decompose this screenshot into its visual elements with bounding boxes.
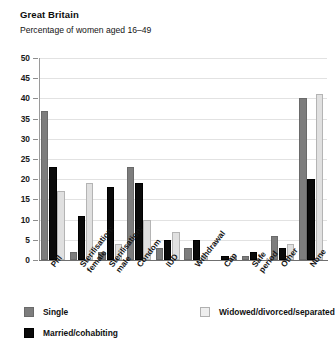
y-axis-tick-mark	[33, 78, 38, 79]
y-axis-tick-mark	[33, 240, 38, 241]
y-axis-tick-mark	[33, 260, 38, 261]
y-axis-tick-label: 50	[4, 54, 30, 62]
chart-card: Great Britain Percentage of women aged 1…	[0, 0, 335, 359]
y-axis-tick-label: 20	[4, 175, 30, 183]
y-axis-tick-mark	[33, 98, 38, 99]
y-axis-tick-mark	[33, 220, 38, 221]
y-axis-tick-label: 45	[4, 74, 30, 82]
y-axis-tick-label: 25	[4, 155, 30, 163]
y-axis-tick-mark	[33, 199, 38, 200]
legend-swatch-single-icon	[24, 307, 34, 317]
y-axis-tick-mark	[33, 159, 38, 160]
bar	[299, 98, 306, 260]
y-axis-tick-label: 10	[4, 216, 30, 224]
y-axis-tick-label: 35	[4, 115, 30, 123]
y-axis-tick-label: 40	[4, 94, 30, 102]
y-axis-tick-mark	[33, 179, 38, 180]
bar-group	[40, 58, 327, 260]
y-axis-tick-label: 30	[4, 135, 30, 143]
legend-label-married: Married/cohabiting	[43, 328, 118, 338]
legend-item-single[interactable]: Single	[24, 307, 68, 317]
y-axis-tick-label: 15	[4, 195, 30, 203]
legend: Single Widowed/divorced/separated Marrie…	[24, 307, 324, 351]
plot-area	[40, 58, 327, 260]
legend-swatch-widowed-icon	[200, 307, 210, 317]
legend-item-married[interactable]: Married/cohabiting	[24, 328, 118, 338]
legend-label-widowed: Widowed/divorced/separated	[219, 307, 335, 317]
legend-item-widowed[interactable]: Widowed/divorced/separated	[200, 307, 335, 317]
page-title: Great Britain	[20, 9, 79, 20]
y-axis-tick-mark	[33, 139, 38, 140]
chart-subtitle: Percentage of women aged 16–49	[20, 25, 151, 35]
bar	[307, 179, 314, 260]
bar	[316, 94, 323, 260]
y-axis-tick-mark	[33, 58, 38, 59]
y-axis-tick-mark	[33, 119, 38, 120]
y-axis-tick-label: 5	[4, 236, 30, 244]
legend-swatch-married-icon	[24, 328, 34, 338]
legend-label-single: Single	[43, 307, 68, 317]
y-axis-tick-label: 0	[4, 256, 30, 264]
